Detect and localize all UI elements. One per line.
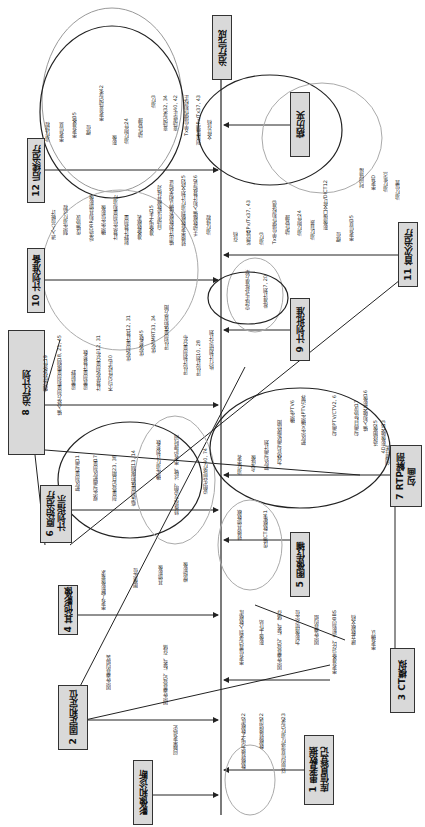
branch-label: 固定装置的组 xyxy=(313,615,319,645)
branch-label: 变动记录32, 34 xyxy=(162,95,168,131)
branch-label: 治疗3 xyxy=(150,95,156,108)
branch-label: 时间链接 xyxy=(358,168,364,188)
branch-label: 患者ID xyxy=(370,175,376,190)
node-first-treatment[interactable]: 11 首次治疗 xyxy=(398,222,418,287)
branch-label: 计算优化剂量分布12, 31 xyxy=(95,335,101,391)
node-other-imaging[interactable]: 4 其他影像 xyxy=(58,585,78,635)
branch-label: 患者信息35 xyxy=(348,215,354,241)
branch-label: 准备电子表15 xyxy=(148,205,154,236)
branch-label: 动作管理 xyxy=(137,118,143,138)
branch-label: 摆位 xyxy=(85,125,91,135)
branch-label: 完成正式批准方案 xyxy=(244,270,250,310)
branch-label: 靶区剂量勾画11 xyxy=(74,455,80,491)
branch-label: 输入和融合影像16 xyxy=(362,390,368,431)
branch-label: 患者了解影像要求 xyxy=(100,570,106,610)
node-image-transfer[interactable]: 5 图像传输 xyxy=(290,532,310,597)
branch-label: 优化剂量计算12, 31 xyxy=(125,315,131,361)
branch-label: 输入处方剂量和剂量限制18, 21, 45 xyxy=(56,335,62,415)
branch-label: 患者信息 xyxy=(58,122,64,142)
branch-label: 确定治疗计划参数 xyxy=(155,440,161,480)
branch-label: 患者确认 xyxy=(370,630,376,650)
branch-label: 评估计划10, 28 xyxy=(195,340,201,376)
branch-label: 剂量监测Pv/Tx37, 43 xyxy=(195,95,201,145)
node-patient-registration[interactable]: 1 患者数据 库信息登记 xyxy=(304,735,334,805)
node-imaging-diagnosis[interactable]: 影像和诊断 xyxy=(133,760,153,825)
branch-label: 患者变动记录42 xyxy=(98,85,104,121)
branch-label: 固定装置登记、标签、存储 xyxy=(162,645,168,705)
branch-label: 变动修正40, 42 xyxy=(172,95,178,131)
branch-label: 问题患者病史 xyxy=(172,725,178,755)
node-subsequent-treatment[interactable]: 12 后续治疗 xyxy=(27,138,45,203)
branch-label: 手动数据输入和计算验证26 xyxy=(192,175,198,236)
branch-label: 数据转换错误22 xyxy=(258,713,264,749)
branch-label: 特殊指令说明、过敏、患者护理时间 xyxy=(173,435,179,515)
branch-label: 计算定位剂量和治疗 xyxy=(112,195,118,240)
branch-label: 剂量登记日期23, 38 xyxy=(111,455,117,501)
branch-label: Tx单位操作和校准3 xyxy=(271,200,277,244)
branch-label: 制定治疗过程 xyxy=(62,205,68,235)
branch-label: 准备数据表 xyxy=(136,215,142,240)
branch-label: 模拟影像 xyxy=(182,562,188,582)
node-ct-sim[interactable]: 3 CT模拟 xyxy=(390,648,415,713)
branch-label: 4D成像 xyxy=(250,455,256,472)
branch-label: 治疗3 xyxy=(258,232,264,245)
branch-label: 确定PTV6 xyxy=(289,400,295,423)
node-patient-chart[interactable]: 病历夹 xyxy=(290,92,310,157)
branch-label: 勾画目标协议17 xyxy=(353,400,359,436)
branch-label: 文件存档 xyxy=(206,120,212,140)
branch-label: 优化IMRT33, 34 xyxy=(150,315,156,353)
branch-label: 固定装置登记、标签、储存 xyxy=(276,610,282,670)
branch-label: 靶区定义确定PTV边界 xyxy=(300,395,306,445)
branch-label: 优化参数45 xyxy=(138,330,144,356)
node-immobilization[interactable]: 2 固定和定位 xyxy=(58,685,88,750)
branch-label: 治疗背景 xyxy=(309,220,315,240)
branch-label: 进入人员统计 xyxy=(50,210,56,240)
node-initial-plan-directive[interactable]: 6 原始治疗 计划指示 xyxy=(40,485,72,543)
branch-label: Tx单位操作和校正 xyxy=(183,95,189,136)
branch-label: 转换患者数据到治疗计划文档25 xyxy=(180,175,186,246)
branch-label: 影像 xyxy=(111,135,117,145)
branch-label: 患者准备35 xyxy=(71,112,77,138)
branch-label: 为影像研究定位 xyxy=(294,610,300,645)
branch-label: 制定优化条件19 xyxy=(42,355,48,391)
branch-label: 治疗焦点 xyxy=(382,172,388,192)
branch-label: 自动传送数据并核对 xyxy=(156,185,162,230)
branch-label: 选择图像25 xyxy=(372,420,378,446)
branch-label: 患者准备(对比、造影剂)BBS xyxy=(331,610,337,674)
branch-label: 射野计算剂量 xyxy=(123,215,129,245)
branch-label: 治疗排程 xyxy=(205,215,211,235)
branch-label: 转换其他数据 xyxy=(236,510,242,540)
branch-label: 输出计划数据及确认相关验证 xyxy=(168,180,174,245)
branch-label: 评估剂量体积直方图 xyxy=(163,305,169,350)
branch-label: 传输CT数据集41 xyxy=(262,510,268,548)
branch-label: 治疗附件24 xyxy=(296,210,302,236)
branch-label: 存档 xyxy=(232,232,238,242)
branch-label: 设置剂量计算参数 xyxy=(82,350,88,390)
branch-label: 监控器Pv/Tx37, 43 xyxy=(245,200,251,245)
branch-label: 勾画PTV/CTV2, 6 xyxy=(331,395,337,436)
branch-label: 为器官勾画轮廓绘图 xyxy=(276,420,282,465)
branch-label: 治疗位置 xyxy=(394,180,400,200)
branch-label: 临床剂量体积限制13, 14 xyxy=(130,450,136,506)
node-plan-approval[interactable]: 9 计划批准 xyxy=(290,298,310,361)
node-plan-preparation[interactable]: 10 计划准备 xyxy=(27,248,45,313)
branch-label: 靶区勾画计划 xyxy=(263,440,269,470)
branch-label: 图像定位 xyxy=(132,568,138,588)
node-treatment-complete[interactable]: 治疗完成 xyxy=(212,15,232,80)
branch-label: 设置射野 xyxy=(70,370,76,390)
branch-label: 固定装置的组装 xyxy=(105,655,111,690)
branch-label: 评估计划剂量分布 xyxy=(182,335,188,375)
branch-label: 以前的信息或疗治疗记录23 xyxy=(280,713,286,774)
node-treatment-planning[interactable]: 8 治疗计划 xyxy=(8,330,45,455)
branch-label: 其他影像 xyxy=(157,565,163,585)
branch-label: 治疗附件24 xyxy=(123,118,129,144)
branch-label: 确定定位影像 xyxy=(100,205,106,235)
branch-label: 患者位置记录到入数据库 xyxy=(238,610,244,665)
branch-label: 治疗排程 xyxy=(44,122,50,142)
node-rtp-contouring[interactable]: 7 RTP解剖 勾画 xyxy=(390,445,422,507)
branch-label: 数据转换为电子数据库22 xyxy=(240,713,246,769)
branch-label: 执行计划研究计划 xyxy=(208,330,214,370)
branch-label: 建立数据文档 xyxy=(350,615,356,645)
branch-label: 影像工作站 xyxy=(258,620,264,645)
branch-label: 动作管理 xyxy=(284,215,290,235)
